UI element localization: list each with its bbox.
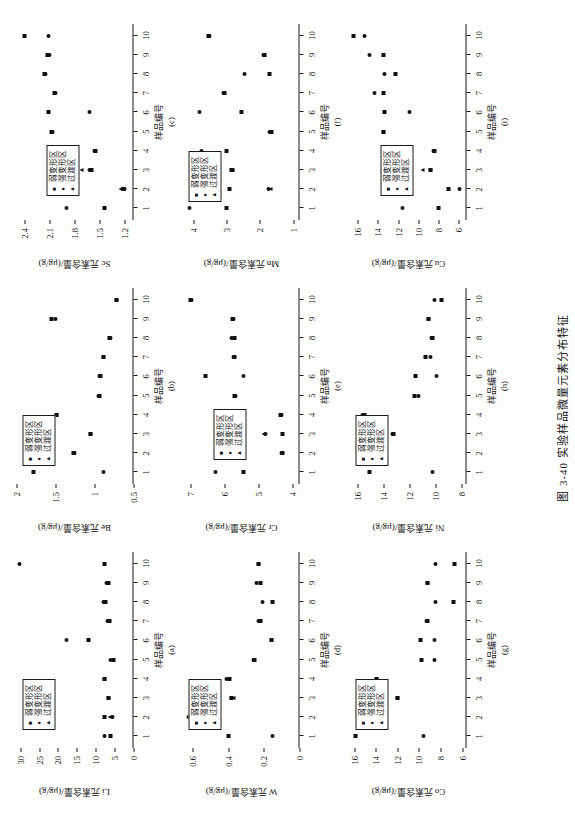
- x-tick-label: 7: [306, 619, 316, 623]
- panel-tag: (d): [331, 552, 341, 748]
- legend-label: 过渡区: [67, 158, 76, 182]
- data-point: [280, 432, 284, 436]
- x-tick-label: 6: [473, 110, 483, 114]
- x-tick-label: 9: [473, 317, 483, 321]
- x-tick-label: 4: [140, 149, 150, 153]
- data-point: [382, 110, 386, 114]
- x-tick: [299, 188, 303, 189]
- legend-label: 弱变形区: [383, 150, 392, 182]
- x-tick: [133, 35, 137, 36]
- data-point: [424, 619, 428, 623]
- data-point: [270, 600, 274, 604]
- y-axis-title: Cr 元素含量/(μg/g): [205, 522, 277, 535]
- y-tick-label: 8: [456, 492, 466, 496]
- data-point: [231, 355, 235, 359]
- y-tick-label: 16: [349, 756, 359, 765]
- data-point: [239, 110, 243, 114]
- data-point: [230, 168, 234, 172]
- x-tick-label: 1: [473, 734, 483, 738]
- data-point: [187, 206, 191, 210]
- y-tick: [190, 484, 191, 488]
- x-tick: [133, 601, 137, 602]
- y-tick-label: 8: [433, 228, 443, 232]
- data-point: [108, 336, 112, 340]
- x-tick: [466, 73, 470, 74]
- x-tick-label: 10: [140, 559, 150, 568]
- legend-label: 过渡区: [43, 692, 52, 716]
- x-tick: [133, 471, 137, 472]
- x-tick-label: 8: [140, 72, 150, 76]
- data-point: [269, 638, 273, 642]
- x-tick: [133, 659, 137, 660]
- y-tick-label: 10: [430, 492, 440, 501]
- y-tick: [357, 220, 358, 224]
- data-point: [381, 91, 385, 95]
- x-tick: [299, 356, 303, 357]
- data-point: [261, 432, 265, 436]
- x-tick-label: 5: [306, 393, 316, 397]
- y-tick-label: 4: [188, 228, 198, 232]
- x-tick: [466, 452, 470, 453]
- legend-marker-circle-icon: ●: [368, 719, 375, 726]
- chart-panel-f: 123456789101234Mn 元素含量/(μg/g)样品编号(f)■弱变形…: [175, 14, 340, 274]
- x-tick-label: 8: [140, 600, 150, 604]
- legend: ■弱变形区●强变形区▲过渡区: [22, 679, 55, 730]
- data-point: [88, 432, 92, 436]
- x-tick: [466, 735, 470, 736]
- data-point: [351, 34, 355, 38]
- y-tick: [224, 484, 225, 488]
- legend-marker-square-icon: ■: [192, 719, 199, 726]
- data-point: [53, 91, 57, 95]
- x-tick-label: 3: [140, 168, 150, 172]
- legend: ■弱变形区●强变形区▲过渡区: [380, 145, 413, 196]
- legend-marker-square-icon: ■: [359, 455, 366, 462]
- legend-item: ●强变形区: [34, 420, 43, 462]
- legend-marker-circle-icon: ●: [35, 455, 42, 462]
- legend-marker-triangle-icon: ▲: [377, 719, 384, 726]
- data-point: [47, 53, 51, 57]
- y-tick: [375, 748, 376, 752]
- legend-item: ▲过渡区: [401, 150, 410, 192]
- y-axis-title: Ni 元素含量/(μg/g): [372, 522, 444, 535]
- data-point: [46, 110, 50, 114]
- x-tick: [466, 471, 470, 472]
- data-point: [381, 53, 385, 57]
- legend-item: ▲过渡区: [43, 684, 52, 726]
- x-tick: [466, 169, 470, 170]
- y-tick-label: 15: [71, 756, 81, 765]
- data-point: [251, 658, 255, 662]
- x-tick-label: 9: [306, 581, 316, 585]
- y-tick-label: 0.6: [187, 756, 197, 767]
- data-point: [22, 34, 26, 38]
- y-tick: [133, 748, 134, 752]
- y-axis-title: Be 元素含量/(μg/g): [38, 522, 111, 535]
- y-tick: [357, 484, 358, 488]
- data-point: [64, 206, 68, 210]
- x-tick-label: 2: [306, 715, 316, 719]
- y-tick: [49, 220, 50, 224]
- data-point: [101, 470, 105, 474]
- x-tick: [299, 620, 303, 621]
- y-tick: [95, 748, 96, 752]
- data-point: [426, 317, 430, 321]
- x-tick: [299, 678, 303, 679]
- data-point: [381, 130, 385, 134]
- x-tick: [133, 54, 137, 55]
- data-point: [64, 638, 68, 642]
- x-tick: [299, 395, 303, 396]
- y-tick: [409, 484, 410, 488]
- data-point: [203, 374, 207, 378]
- legend-marker-triangle-icon: ▲: [377, 455, 384, 462]
- y-tick-label: 2: [254, 228, 264, 232]
- x-tick-label: 5: [473, 657, 483, 661]
- legend-marker-circle-icon: ●: [368, 455, 375, 462]
- data-point: [428, 168, 432, 172]
- x-tick-label: 6: [140, 638, 150, 642]
- data-point: [451, 600, 455, 604]
- y-tick: [99, 220, 100, 224]
- y-tick-label: 4: [287, 492, 297, 496]
- legend-label: 强变形区: [392, 150, 401, 182]
- y-tick-label: 12: [393, 228, 403, 237]
- data-point: [412, 394, 416, 398]
- x-tick-label: 6: [306, 374, 316, 378]
